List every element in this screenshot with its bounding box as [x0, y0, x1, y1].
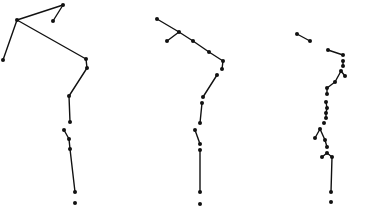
stick-figure-1 — [1, 3, 89, 205]
limb-segment — [179, 32, 193, 41]
joint-point — [61, 3, 65, 7]
limb-segment — [17, 20, 86, 59]
joint-point — [325, 86, 329, 90]
joint-point — [215, 73, 219, 77]
limb-segment — [69, 68, 87, 96]
joint-point — [329, 190, 333, 194]
joint-point — [73, 190, 77, 194]
joint-point — [320, 155, 324, 159]
joint-point — [155, 17, 159, 21]
joint-point — [84, 57, 88, 61]
joint-point — [68, 147, 72, 151]
joint-point — [341, 59, 345, 63]
joint-point — [15, 18, 19, 22]
joint-point — [85, 66, 89, 70]
limb-segment — [297, 34, 310, 41]
joint-point — [221, 59, 225, 63]
joint-point — [323, 138, 327, 142]
joint-point — [1, 58, 5, 62]
limb-segment — [203, 75, 217, 97]
joint-point — [330, 155, 334, 159]
stick-figure-diagram — [0, 0, 366, 210]
limb-segment — [328, 50, 343, 55]
joint-point — [329, 200, 333, 204]
joint-point — [201, 95, 205, 99]
joint-point — [198, 190, 202, 194]
joint-point — [165, 39, 169, 43]
joint-point — [324, 116, 328, 120]
joint-point — [198, 148, 202, 152]
limb-segment — [157, 19, 179, 32]
limb-segment — [209, 52, 223, 61]
joint-point — [198, 202, 202, 206]
joint-point — [324, 111, 328, 115]
stick-figure-3 — [295, 32, 347, 204]
joint-point — [333, 80, 337, 84]
joint-point — [339, 69, 343, 73]
joint-point — [325, 145, 329, 149]
joint-point — [193, 128, 197, 132]
joint-point — [62, 128, 66, 132]
joint-point — [325, 106, 329, 110]
limb-segment — [3, 20, 17, 60]
joint-point — [67, 137, 71, 141]
joint-point — [295, 32, 299, 36]
joint-point — [177, 30, 181, 34]
joint-point — [322, 121, 326, 125]
joint-point — [324, 100, 328, 104]
joint-point — [325, 92, 329, 96]
joint-point — [313, 136, 317, 140]
joint-point — [308, 39, 312, 43]
limb-segment — [195, 130, 200, 144]
joint-point — [343, 74, 347, 78]
joint-point — [198, 142, 202, 146]
joint-point — [73, 201, 77, 205]
limb-segment — [200, 103, 202, 123]
joint-point — [325, 151, 329, 155]
joint-point — [200, 101, 204, 105]
joint-point — [51, 19, 55, 23]
limb-segment — [193, 41, 209, 52]
stick-figure-2 — [155, 17, 225, 206]
limb-segment — [167, 32, 179, 41]
limb-segment — [17, 5, 63, 20]
limb-segment — [331, 157, 332, 192]
limb-segment — [70, 149, 75, 192]
joint-point — [326, 48, 330, 52]
joint-point — [207, 50, 211, 54]
joint-point — [220, 67, 224, 71]
joint-point — [68, 120, 72, 124]
joint-point — [198, 121, 202, 125]
joint-point — [318, 127, 322, 131]
joint-point — [341, 53, 345, 57]
joint-point — [191, 39, 195, 43]
joint-point — [67, 94, 71, 98]
joint-point — [341, 64, 345, 68]
limb-segment — [69, 96, 70, 122]
